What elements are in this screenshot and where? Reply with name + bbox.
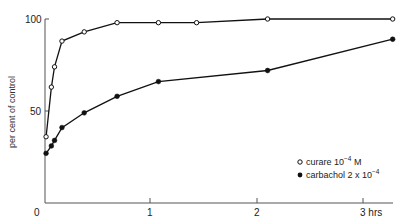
x-axis: 0 1 2 3 hrs	[34, 198, 393, 218]
data-point	[390, 37, 395, 42]
data-point	[390, 17, 394, 21]
y-axis: 100 50 per cent of control	[7, 14, 49, 203]
data-point	[194, 20, 198, 24]
legend-label-curare: curare 10−4 M	[306, 155, 361, 167]
data-point	[265, 17, 269, 21]
series-layer	[44, 17, 395, 156]
legend: curare 10−4 M carbachol 2 x 10−4	[298, 155, 380, 180]
data-point	[265, 68, 270, 73]
open-circle-icon	[298, 160, 302, 164]
y-axis-title: per cent of control	[7, 76, 17, 148]
x-tick-label-1: 1	[147, 207, 153, 218]
x-tick-label-3: 3 hrs	[360, 207, 382, 218]
legend-label-carbachol: carbachol 2 x 10−4	[306, 168, 380, 180]
data-point	[156, 20, 160, 24]
filled-circle-icon	[298, 173, 303, 178]
data-point	[60, 39, 64, 43]
data-point	[156, 79, 161, 84]
data-point	[52, 138, 57, 143]
data-point	[82, 110, 87, 115]
data-point	[44, 151, 49, 156]
series-line	[46, 39, 393, 153]
data-point	[115, 20, 119, 24]
data-point	[115, 94, 120, 99]
series-line	[46, 19, 393, 137]
data-point	[82, 30, 86, 34]
series-carbachol	[44, 37, 395, 156]
data-point	[44, 135, 48, 139]
x-tick-label-2: 2	[254, 207, 260, 218]
data-point	[49, 144, 54, 149]
data-point	[52, 65, 56, 69]
line-chart: 100 50 per cent of control 0 1 2 3 hrs c…	[0, 0, 405, 224]
y-tick-label-50: 50	[30, 106, 42, 117]
series-curare	[44, 17, 395, 139]
data-point	[49, 85, 53, 89]
y-tick-label-100: 100	[25, 14, 42, 25]
x-tick-label-0: 0	[34, 207, 40, 218]
data-point	[60, 125, 65, 130]
